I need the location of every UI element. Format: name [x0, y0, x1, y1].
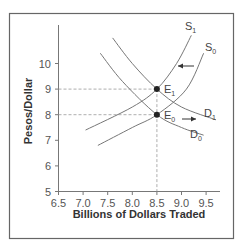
equilibrium-point-e0: [154, 112, 160, 118]
x-tick-label: 6.5: [51, 197, 66, 209]
y-tick-label: 5: [45, 186, 51, 198]
x-axis-title: Billions of Dollars Traded: [73, 208, 206, 220]
y-tick-label: 10: [39, 58, 51, 70]
chart: 6.57.07.58.08.59.09.5 5678910 S1S0D1D0 E…: [0, 0, 247, 251]
equilibrium-point-e1: [154, 86, 160, 92]
y-tick-label: 7: [45, 134, 51, 146]
y-axis-title: Pesos/Dollar: [22, 77, 34, 144]
y-tick-label: 9: [45, 83, 51, 95]
y-tick-label: 6: [45, 160, 51, 172]
y-tick-label: 8: [45, 109, 51, 121]
